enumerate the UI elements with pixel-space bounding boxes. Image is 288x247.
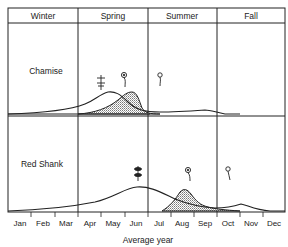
month-label-aug: Aug xyxy=(175,219,189,228)
month-label-nov: Nov xyxy=(244,219,258,228)
flower-bud-icon xyxy=(185,167,190,181)
season-label-winter: Winter xyxy=(31,11,56,21)
month-label-apr: Apr xyxy=(84,219,97,228)
flower-bud-icon xyxy=(158,73,162,86)
red-shank-growth-curve xyxy=(8,187,285,211)
month-label-jul: Jul xyxy=(154,219,164,228)
flower-bud-icon xyxy=(121,72,126,87)
month-ticks xyxy=(31,212,263,217)
chart-frame xyxy=(8,8,285,212)
month-label-dec: Dec xyxy=(267,219,281,228)
season-label-fall: Fall xyxy=(244,11,258,21)
x-axis-label: Average year xyxy=(123,235,174,245)
panel-label-red-shank: Red Shank xyxy=(21,159,64,169)
phenology-chart: Winter Spring Summer Fall Chamise Red Sh… xyxy=(0,0,288,247)
season-label-summer: Summer xyxy=(166,11,198,21)
season-label-spring: Spring xyxy=(101,11,126,21)
month-label-jan: Jan xyxy=(14,219,27,228)
red-shank-flowering-curve xyxy=(162,190,240,211)
leaf-growth-icon xyxy=(97,75,105,90)
flower-bud-icon xyxy=(226,167,230,180)
month-label-sep: Sep xyxy=(198,219,213,228)
month-label-may: May xyxy=(105,219,120,228)
month-label-mar: Mar xyxy=(59,219,73,228)
month-label-jun: Jun xyxy=(130,219,143,228)
month-label-feb: Feb xyxy=(36,219,50,228)
month-label-oct: Oct xyxy=(222,219,235,228)
panel-label-chamise: Chamise xyxy=(29,66,63,76)
leaf-growth-icon xyxy=(135,166,142,181)
